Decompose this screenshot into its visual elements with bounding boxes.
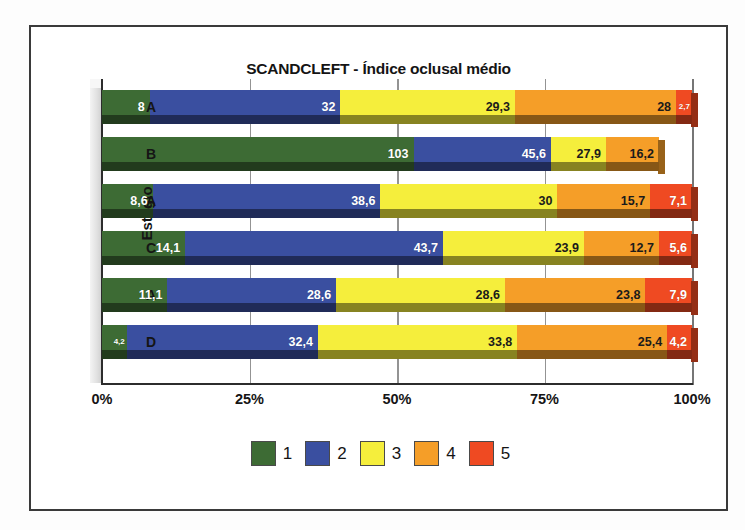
bar-segment-shading-3d [102, 303, 167, 312]
bar-segment-shading-3d [127, 350, 318, 359]
bar-segment-value-label: 29,3 [486, 101, 515, 114]
x-axis-line [101, 383, 693, 385]
bar-segment-series-4[interactable]: 15,7 [557, 184, 650, 218]
bar-segment-series-2[interactable]: 43,7 [185, 231, 443, 265]
bar-segment-series-4[interactable]: 16,2 [606, 137, 659, 171]
bar-segment-shading-3d [185, 256, 443, 265]
legend-item-1[interactable]: 1 [251, 441, 292, 466]
bar-segment-series-1[interactable]: 11,1 [102, 278, 167, 312]
bar-segment-shading-3d [517, 350, 667, 359]
bar-segment-value-label: 16,2 [630, 148, 659, 161]
bar-segment-value-label: 23,8 [616, 289, 645, 302]
bar-segment-series-3[interactable]: 29,3 [340, 90, 515, 124]
bar-segment-shading-3d [515, 115, 676, 124]
x-tick-label: 100% [659, 391, 725, 407]
bar-segment-shading-3d [153, 209, 381, 218]
bar-segment-shading-3d [505, 303, 645, 312]
bar-segment-series-2[interactable]: 28,6 [167, 278, 336, 312]
bar-segment-shading-3d [650, 209, 692, 218]
bar-segment-shading-3d [645, 303, 692, 312]
legend-item-4[interactable]: 4 [414, 441, 455, 466]
bar-segment-series-1[interactable]: 4,2 [102, 325, 127, 359]
x-tick-label: 75% [512, 391, 578, 407]
bar-segment-shading-3d [557, 209, 650, 218]
bar-end-cap-3d [691, 93, 698, 127]
bar-segment-series-3[interactable]: 27,9 [551, 137, 606, 171]
bar-segment-shading-3d [102, 162, 414, 171]
bar-segment-series-4[interactable]: 12,7 [584, 231, 659, 265]
legend-swatch-2 [305, 441, 330, 466]
x-tick-label: 25% [217, 391, 283, 407]
bar-segment-series-5[interactable]: 4,2 [667, 325, 692, 359]
bar-segment-series-3[interactable]: 33,8 [318, 325, 517, 359]
bar-end-cap-3d [691, 328, 698, 362]
bar-segment-shading-3d [676, 115, 692, 124]
bar-segment-shading-3d [584, 256, 659, 265]
bar-segment-series-4[interactable]: 25,4 [517, 325, 667, 359]
bar-segment-value-label: 43,7 [414, 242, 443, 255]
bar-segment-value-label: 27,9 [577, 148, 606, 161]
bar-segment-value-label: 4,2 [670, 336, 692, 349]
chart-frame: SCANDCLEFT - Índice oclusal médio 83229,… [29, 25, 728, 511]
bar-segment-series-5[interactable]: 5,6 [659, 231, 692, 265]
bar-segment-series-5[interactable]: 7,9 [645, 278, 692, 312]
bar-segment-shading-3d [414, 162, 551, 171]
bar-segment-shading-3d [336, 303, 505, 312]
bar-segment-series-2[interactable]: 45,6 [414, 137, 551, 171]
bar-segment-value-label: 14,1 [156, 242, 185, 255]
stacked-bar[interactable]: 8,638,63015,77,1 [102, 184, 692, 218]
bar-segment-shading-3d [102, 115, 150, 124]
bar-segment-shading-3d [380, 209, 557, 218]
bar-segment-series-5[interactable]: 2,7 [676, 90, 692, 124]
stacked-bar[interactable]: 10345,627,916,2 [102, 137, 659, 171]
legend-item-2[interactable]: 2 [305, 441, 346, 466]
bar-segment-value-label: 30 [539, 195, 558, 208]
bar-segment-series-2[interactable]: 38,6 [153, 184, 381, 218]
bar-segment-shading-3d [443, 256, 584, 265]
bar-segment-series-4[interactable]: 23,8 [505, 278, 645, 312]
stacked-bar[interactable]: 4,232,433,825,44,2 [102, 325, 692, 359]
bar-segment-value-label: 4,2 [114, 338, 127, 346]
bar-segment-shading-3d [102, 350, 127, 359]
bar-segment-series-1[interactable]: 8 [102, 90, 150, 124]
legend-item-5[interactable]: 5 [469, 441, 510, 466]
page-title: SCANDCLEFT - Índice oclusal médio [31, 60, 726, 78]
bar-end-cap-3d [691, 281, 698, 315]
bar-segment-value-label: 25,4 [638, 336, 667, 349]
bar-segment-series-3[interactable]: 23,9 [443, 231, 584, 265]
bar-segment-value-label: 28 [657, 101, 676, 114]
stacked-bar[interactable]: 11,128,628,623,87,9 [102, 278, 692, 312]
bar-segment-shading-3d [102, 209, 153, 218]
bar-segment-value-label: 33,8 [488, 336, 517, 349]
bar-segment-value-label: 23,9 [555, 242, 584, 255]
bar-segment-shading-3d [659, 256, 692, 265]
stacked-bar[interactable]: 14,143,723,912,75,6 [102, 231, 692, 265]
bar-segment-value-label: 8 [138, 101, 150, 114]
bar-segment-series-3[interactable]: 30 [380, 184, 557, 218]
legend-swatch-3 [360, 441, 385, 466]
bar-segment-shading-3d [167, 303, 336, 312]
chart-page: SCANDCLEFT - Índice oclusal médio 83229,… [0, 0, 745, 530]
bar-segment-series-5[interactable]: 7,1 [650, 184, 692, 218]
legend: 12345 [31, 441, 730, 466]
bar-segment-value-label: 103 [388, 148, 414, 161]
stacked-bar[interactable]: 83229,3282,7 [102, 90, 692, 124]
bar-segment-value-label: 7,1 [670, 195, 692, 208]
bar-segment-shading-3d [150, 115, 341, 124]
legend-label-4: 4 [446, 444, 455, 464]
bar-segment-value-label: 32,4 [289, 336, 318, 349]
legend-label-2: 2 [337, 444, 346, 464]
bar-segment-value-label: 45,6 [522, 148, 551, 161]
bar-segment-shading-3d [667, 350, 692, 359]
bar-segment-series-4[interactable]: 28 [515, 90, 676, 124]
legend-item-3[interactable]: 3 [360, 441, 401, 466]
bar-end-cap-3d [691, 187, 698, 221]
bar-end-cap-3d [691, 234, 698, 268]
legend-label-3: 3 [392, 444, 401, 464]
bar-segment-shading-3d [551, 162, 606, 171]
bar-end-cap-3d [658, 140, 665, 174]
bar-segment-series-2[interactable]: 32 [150, 90, 341, 124]
x-tick-label: 0% [69, 391, 135, 407]
bar-segment-series-3[interactable]: 28,6 [336, 278, 505, 312]
bar-segment-value-label: 8,6 [130, 195, 152, 208]
